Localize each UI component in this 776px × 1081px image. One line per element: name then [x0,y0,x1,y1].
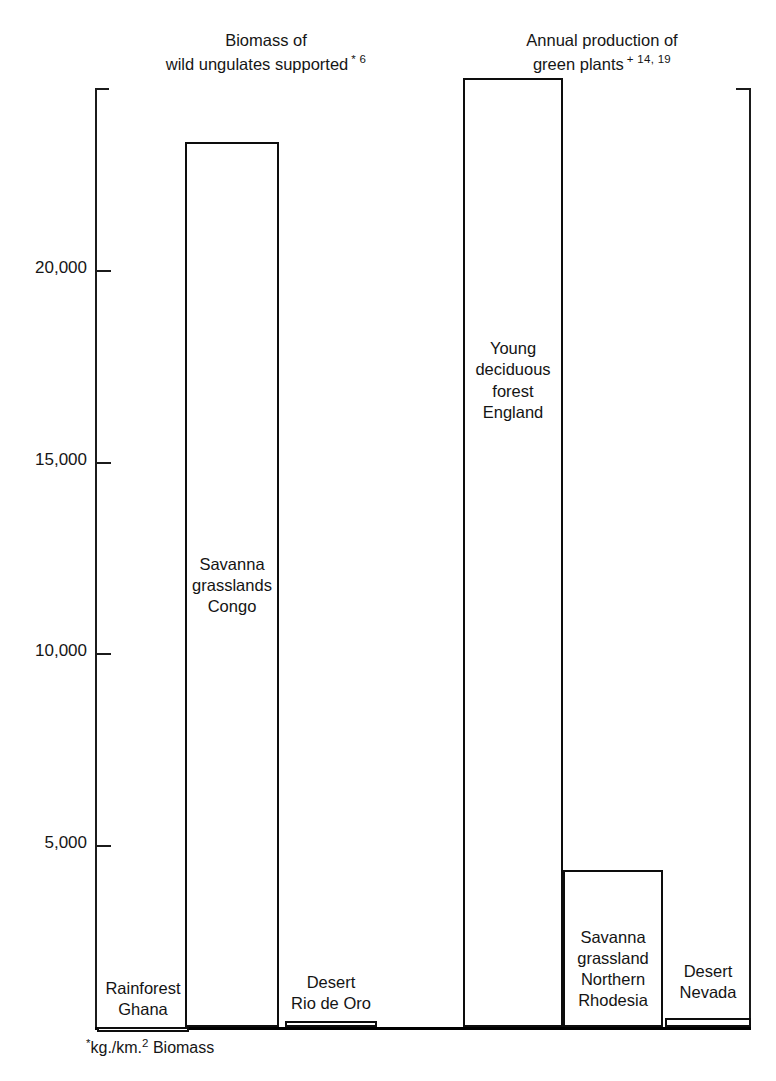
y-axis-line [95,88,97,1029]
plot-area: 20,000 15,000 10,000 5,000 Rainforest Gh… [95,88,751,1029]
y-tick-mark-20000 [97,270,111,272]
bar-rainforest-ghana: Rainforest Ghana [97,1027,189,1032]
bar-savanna-grassland-northern-rhodesia: Savanna grassland Northern Rhodesia [563,870,663,1027]
panel-title-production-line1: Annual production of [452,30,752,52]
bar-label-line4: England [483,403,544,421]
bar-label-young-deciduous-forest-england: Young deciduous forest England [475,338,550,422]
right-axis-line [749,88,751,1029]
panel-title-biomass-line1: Biomass of [96,30,436,52]
y-tick-mark-15000 [97,462,111,464]
bar-label-line2: grassland [577,949,649,967]
panel-title-biomass-line2: wild ungulates supported* 6 [96,52,436,75]
panel-title-biomass-reference: * 6 [351,53,366,65]
bar-label-rainforest-ghana: Rainforest Ghana [105,978,180,1020]
y-tick-label-10000: 10,000 [35,641,87,661]
bar-chart-figure: Biomass of wild ungulates supported* 6 A… [0,0,776,1081]
x-axis-baseline [95,1027,751,1030]
right-axis-top-bracket [736,88,751,90]
panel-title-production: Annual production of green plants+ 14, 1… [452,30,752,75]
footnote: *kg./km.2 Biomass [86,1037,214,1057]
bar-label-savanna-grasslands-congo: Savanna grasslands Congo [192,554,272,617]
bar-label-savanna-grassland-northern-rhodesia: Savanna grassland Northern Rhodesia [577,927,649,1011]
y-tick-mark-5000 [97,845,111,847]
bar-young-deciduous-forest-england: Young deciduous forest England [463,78,563,1027]
bar-label-line2: Ghana [118,1000,168,1018]
bar-label-line2: Nevada [680,983,737,1001]
bar-label-desert-rio-de-oro: Desert Rio de Oro [291,972,371,1014]
bar-label-line2: grasslands [192,576,272,594]
y-tick-label-15000: 15,000 [35,450,87,470]
bar-label-line1: Rainforest [105,979,180,997]
panel-title-biomass: Biomass of wild ungulates supported* 6 [96,30,436,75]
bar-label-desert-nevada: Desert Nevada [680,961,737,1003]
bar-label-line3: Northern [581,970,645,988]
y-tick-label-5000: 5,000 [44,833,87,853]
footnote-unit: kg./km. [90,1039,142,1056]
y-tick-mark-10000 [97,653,111,655]
bar-label-line3: forest [492,382,533,400]
bar-label-line1: Desert [307,973,356,991]
bar-label-line2: deciduous [475,360,550,378]
bar-label-line1: Savanna [199,555,264,573]
bar-desert-rio-de-oro: Desert Rio de Oro [285,1021,377,1027]
panel-title-production-line2: green plants+ 14, 19 [452,52,752,75]
bar-savanna-grasslands-congo: Savanna grasslands Congo [185,142,279,1027]
footnote-word: Biomass [148,1039,214,1056]
bar-label-line1: Young [490,339,536,357]
panel-title-production-reference: + 14, 19 [627,53,671,65]
y-tick-label-20000: 20,000 [35,258,87,278]
bar-label-line1: Desert [684,962,733,980]
bar-label-line1: Savanna [580,928,645,946]
bar-desert-nevada: Desert Nevada [665,1018,751,1028]
y-axis-top-bracket [95,88,109,90]
bar-label-line3: Congo [208,597,257,615]
bar-label-line2: Rio de Oro [291,994,371,1012]
bar-label-line4: Rhodesia [578,991,648,1009]
